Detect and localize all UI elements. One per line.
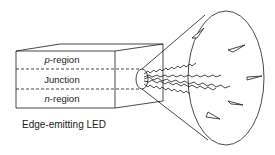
arrowhead-1 (192, 28, 204, 38)
ray-5 (144, 84, 190, 94)
ray-2 (144, 75, 221, 77)
edge-emitting-led-diagram: p-region Junction n-region Edge-emitting… (0, 0, 275, 155)
n-region-label: n-region (45, 93, 80, 104)
light-rays (144, 63, 230, 94)
junction-label: Junction (44, 74, 79, 85)
ray-arrowheads (192, 28, 262, 119)
cone-edge-bottom (142, 89, 208, 140)
arrowhead-3 (247, 76, 262, 80)
arrowhead-2 (228, 45, 245, 52)
p-region-label: p-region (44, 54, 80, 65)
side-face (115, 44, 163, 108)
cone-edge-top (142, 15, 205, 69)
arrowhead-4 (228, 101, 243, 105)
led-block (16, 44, 163, 108)
top-face (16, 44, 163, 51)
diagram-caption: Edge-emitting LED (22, 119, 106, 130)
arrowhead-5 (206, 112, 220, 119)
emission-cone (142, 11, 264, 145)
